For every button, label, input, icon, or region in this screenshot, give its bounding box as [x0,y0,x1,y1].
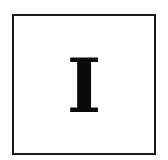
letter-glyph: I [14,16,154,153]
letter-tile: I [12,14,156,155]
